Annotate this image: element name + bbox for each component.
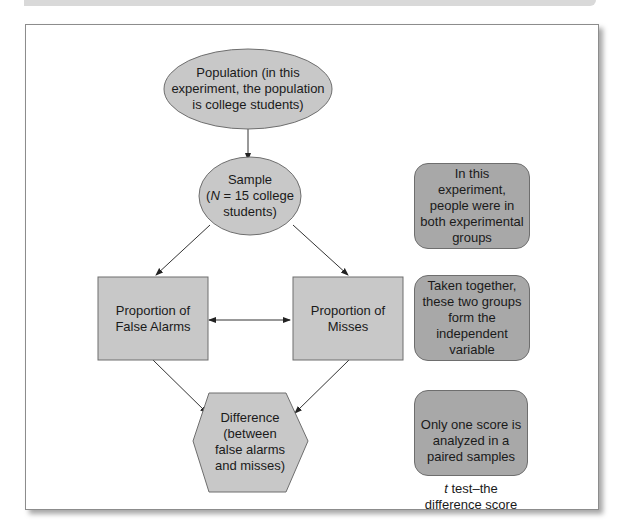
false-alarms-label: Proportion of False Alarms bbox=[98, 277, 208, 360]
sample-students: students) bbox=[223, 204, 276, 220]
note-paired-line1: Only one score is analyzed in a paired s… bbox=[421, 417, 521, 464]
note-both-groups: In this experiment, people were in both … bbox=[414, 163, 530, 249]
note-independent-variable: Taken together, these two groups form th… bbox=[414, 275, 530, 361]
sample-n-line: (N = 15 college bbox=[206, 188, 294, 204]
edge-misses-difference bbox=[295, 360, 349, 413]
sample-title: Sample bbox=[228, 172, 272, 188]
edge-sample-false-alarms bbox=[156, 225, 210, 275]
edge-sample-misses bbox=[293, 225, 348, 275]
misses-label: Proportion of Misses bbox=[293, 277, 403, 360]
edge-false-alarms-difference bbox=[153, 360, 207, 413]
difference-label: Difference (between false alarms and mis… bbox=[200, 400, 300, 484]
population-label: Population (in this experiment, the popu… bbox=[164, 60, 332, 118]
note-paired-samples: Only one score is analyzed in a paired s… bbox=[414, 390, 528, 476]
sample-label: Sample (N = 15 college students) bbox=[200, 170, 300, 222]
